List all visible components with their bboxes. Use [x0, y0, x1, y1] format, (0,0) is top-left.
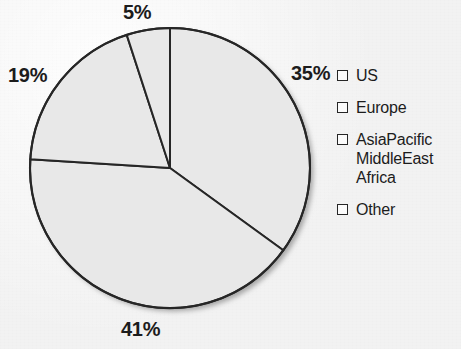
- slice-label-us: 35%: [291, 62, 330, 85]
- slice-label-europe: 41%: [121, 318, 160, 341]
- legend-item-label-line3: Africa: [356, 168, 433, 187]
- square-outline-icon: [337, 204, 348, 215]
- legend-item-us[interactable]: US: [337, 66, 461, 85]
- legend-item-label-line2: MiddleEast: [356, 149, 433, 168]
- legend-item-label: Other: [356, 200, 395, 219]
- legend-item-asiapacific[interactable]: AsiaPacific MiddleEast Africa: [337, 130, 461, 187]
- chart-legend: US Europe AsiaPacific MiddleEast Africa …: [337, 66, 461, 219]
- legend-item-europe[interactable]: Europe: [337, 98, 461, 117]
- legend-item-other[interactable]: Other: [337, 200, 461, 219]
- slice-label-asiapacific: 19%: [8, 64, 47, 87]
- pie-slice-group: [30, 28, 310, 308]
- square-outline-icon: [337, 134, 348, 145]
- legend-item-label: US: [356, 66, 378, 85]
- legend-item-label-group: AsiaPacific MiddleEast Africa: [356, 130, 433, 187]
- legend-item-label: Europe: [356, 98, 406, 117]
- pie-chart-figure: 35% 41% 19% 5% US Europe AsiaPacific Mid…: [0, 0, 461, 349]
- slice-label-other: 5%: [123, 1, 151, 24]
- square-outline-icon: [337, 70, 348, 81]
- legend-item-label-line1: AsiaPacific: [356, 130, 433, 149]
- square-outline-icon: [337, 102, 348, 113]
